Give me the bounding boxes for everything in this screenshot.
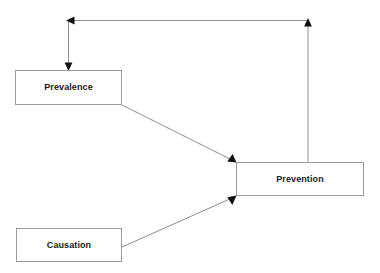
- diagram-canvas: Prevalence Prevention Causation: [0, 0, 380, 273]
- node-causation[interactable]: Causation: [16, 228, 122, 262]
- edge-prevalence-to-prevention-line: [122, 105, 232, 160]
- node-prevalence[interactable]: Prevalence: [15, 70, 122, 105]
- arrowhead-up-top-right-elbow: [304, 18, 312, 27]
- arrowhead-left-top-elbow: [66, 17, 75, 25]
- node-causation-label: Causation: [47, 241, 91, 250]
- node-prevalence-label: Prevalence: [44, 83, 93, 92]
- edge-causation-to-prevention: [122, 196, 237, 248]
- node-prevention[interactable]: Prevention: [236, 162, 364, 196]
- arrowhead-into-prevention-bottom-left: [227, 196, 236, 205]
- edge-prevalence-to-prevention: [122, 105, 237, 163]
- node-prevention-label: Prevention: [276, 175, 324, 184]
- edge-causation-to-prevention-line: [122, 198, 232, 247]
